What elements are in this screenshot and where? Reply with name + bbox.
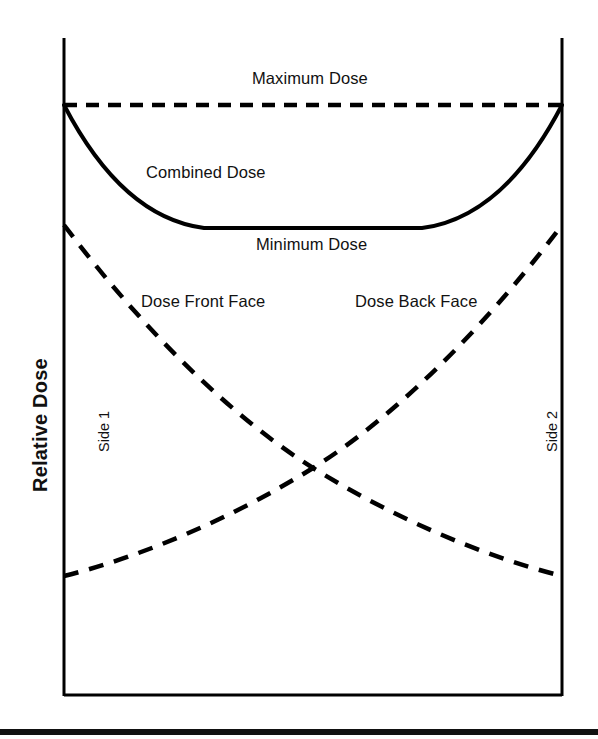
dose-front-face-curve [64, 225, 562, 576]
dose-distribution-chart [0, 0, 598, 739]
side-1-label: Side 1 [97, 411, 112, 452]
bottom-rule [0, 729, 598, 735]
maximum-dose-label: Maximum Dose [252, 70, 368, 87]
minimum-dose-label: Minimum Dose [256, 236, 367, 253]
dose-back-face-label: Dose Back Face [355, 293, 477, 310]
dose-back-face-curve [64, 225, 562, 576]
y-axis-title: Relative Dose [30, 358, 50, 492]
combined-dose-label: Combined Dose [146, 164, 266, 181]
plot-frame [64, 38, 562, 696]
side-2-label: Side 2 [545, 411, 560, 452]
dose-front-face-label: Dose Front Face [141, 293, 265, 310]
combined-dose-curve [64, 105, 562, 228]
figure-root: Maximum Dose Combined Dose Minimum Dose … [0, 0, 598, 739]
